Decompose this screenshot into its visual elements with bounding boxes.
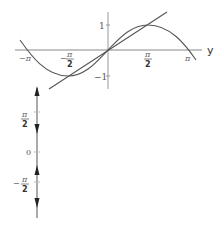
phase-label-neg-pi-over-2: − π 2 — [13, 175, 29, 194]
minus-sign: − — [60, 54, 67, 63]
numerator-pi: π — [21, 175, 28, 184]
x-axis-label: y — [207, 44, 214, 57]
minus-sign: − — [13, 179, 20, 188]
phase-label-zero: 0 — [26, 148, 31, 157]
arrow-down-icon — [35, 124, 40, 134]
phase-line: π 2 0 − π 2 — [13, 86, 40, 218]
arrow-up-icon — [35, 165, 40, 175]
numerator-pi: π — [66, 50, 73, 59]
numerator-pi: π — [144, 50, 151, 59]
numerator-pi: π — [21, 110, 28, 119]
arrow-down-icon — [35, 198, 40, 208]
tick-label-neg-one: −1 — [94, 72, 107, 82]
arrow-up-icon — [35, 86, 40, 96]
denominator-two: 2 — [145, 60, 151, 69]
tick-label-one: 1 — [99, 21, 105, 31]
denominator-two: 2 — [67, 60, 73, 69]
tick-label-pi: π — [184, 54, 191, 63]
phase-label-pi-over-2: π 2 — [21, 110, 29, 129]
denominator-two: 2 — [22, 185, 28, 194]
denominator-two: 2 — [22, 120, 28, 129]
tick-label-neg-pi-over-2: − π 2 — [60, 50, 74, 69]
tick-label-pi-over-2: π 2 — [144, 50, 152, 69]
sine-plot: y −π π − π 2 π 2 1 −1 — [15, 12, 214, 89]
tick-label-neg-pi: −π — [19, 54, 32, 63]
diagram-canvas: y −π π − π 2 π 2 1 −1 — [0, 0, 224, 225]
